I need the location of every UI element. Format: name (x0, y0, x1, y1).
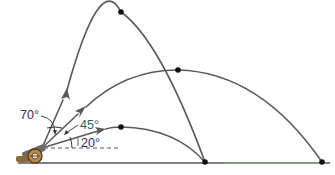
projectile-diagram (0, 0, 335, 175)
cannon-icon (16, 144, 46, 163)
angle-label-70: 70° (20, 109, 39, 122)
angle-label-20: 20° (81, 137, 100, 150)
trajectory-45-rise (86, 70, 178, 107)
apex-dot-70 (118, 9, 124, 15)
apex-dot-20 (118, 124, 124, 130)
apex-dot-45 (175, 67, 181, 73)
trajectory-20-fall (121, 127, 205, 162)
angle-label-45: 45° (80, 119, 99, 132)
leader-70 (41, 116, 55, 132)
landing-dot-short (202, 159, 208, 165)
arrow-70-icon (61, 88, 70, 100)
trajectory-70-fall (121, 12, 205, 162)
leader-arrow-45-icon (64, 130, 69, 135)
landing-dot-long (319, 159, 325, 165)
trajectory-70-rise (67, 1, 121, 90)
